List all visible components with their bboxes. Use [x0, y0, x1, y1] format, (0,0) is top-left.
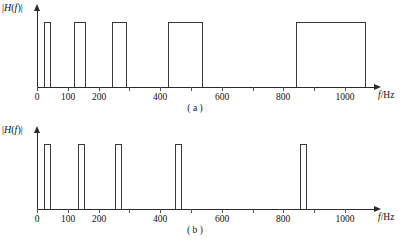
x-tick-400-b: [160, 209, 161, 213]
x-axis-unit-label-a: f/Hz: [378, 90, 394, 100]
x-axis-line-a: [37, 87, 375, 88]
band-3-a: [112, 22, 127, 87]
y-axis-arrow-a: [34, 4, 40, 11]
band-4-b: [175, 144, 182, 209]
band-2-b: [78, 144, 85, 209]
x-tick-label-800-a: 800: [271, 92, 295, 102]
x-tick-200-a: [99, 87, 100, 91]
x-tick-label-400-b: 400: [148, 214, 172, 224]
band-1-b: [44, 144, 51, 209]
y-axis-line-a: [37, 10, 38, 87]
x-tick-label-100-a: 100: [56, 92, 80, 102]
y-axis-label-b: |H(f)|: [2, 124, 23, 135]
y-axis-arrow-b: [34, 126, 40, 133]
x-axis-unit-label-b: f/Hz: [378, 212, 394, 222]
x-tick-1000-b: [345, 209, 346, 213]
x-tick-label-800-b: 800: [271, 214, 295, 224]
band-3-b: [115, 144, 122, 209]
x-tick-500-b: [191, 209, 192, 213]
x-tick-0-b: [37, 209, 38, 213]
x-tick-label-400-a: 400: [148, 92, 172, 102]
x-tick-600-a: [222, 87, 223, 91]
x-tick-label-600-b: 600: [210, 214, 234, 224]
x-tick-300-b: [129, 209, 130, 213]
x-tick-800-a: [283, 87, 284, 91]
x-tick-200-b: [99, 209, 100, 213]
x-tick-500-a: [191, 87, 192, 91]
x-tick-900-b: [314, 209, 315, 213]
x-tick-0-a: [37, 87, 38, 91]
band-4-a: [168, 22, 203, 87]
x-tick-600-b: [222, 209, 223, 213]
x-tick-700-a: [253, 87, 254, 91]
x-tick-900-a: [314, 87, 315, 91]
x-tick-label-100-b: 100: [56, 214, 80, 224]
band-5-a: [296, 22, 366, 87]
caption-b: ( b ): [165, 225, 225, 235]
x-tick-400-a: [160, 87, 161, 91]
x-tick-1000-a: [345, 87, 346, 91]
caption-a: ( a ): [165, 103, 225, 113]
chart-panel-a: |H(f)| f/Hz 0 100 200 400 600 800 1000 (…: [0, 0, 402, 122]
x-tick-label-0-a: 0: [27, 92, 47, 102]
chart-panel-b: |H(f)| f/Hz 0 100 200 400 600 800 1000 (…: [0, 122, 402, 244]
band-5-b: [300, 144, 307, 209]
x-axis-line-b: [37, 209, 375, 210]
y-axis-label-a: |H(f)|: [2, 2, 23, 13]
x-tick-label-1000-b: 1000: [331, 214, 359, 224]
x-tick-label-600-a: 600: [210, 92, 234, 102]
plot-area-a: |H(f)| f/Hz 0 100 200 400 600 800 1000 (…: [0, 0, 402, 122]
y-axis-line-b: [37, 132, 38, 209]
x-tick-label-200-b: 200: [87, 214, 111, 224]
band-2-a: [74, 22, 86, 87]
x-tick-300-a: [129, 87, 130, 91]
band-1-a: [44, 22, 51, 87]
x-tick-100-b: [68, 209, 69, 213]
plot-area-b: |H(f)| f/Hz 0 100 200 400 600 800 1000 (…: [0, 122, 402, 244]
x-tick-label-200-a: 200: [87, 92, 111, 102]
x-tick-100-a: [68, 87, 69, 91]
x-tick-label-0-b: 0: [27, 214, 47, 224]
x-tick-700-b: [253, 209, 254, 213]
x-tick-label-1000-a: 1000: [331, 92, 359, 102]
x-tick-800-b: [283, 209, 284, 213]
